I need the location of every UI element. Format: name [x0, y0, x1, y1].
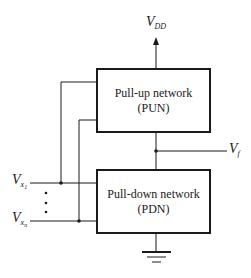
vxn-label-main: V [12, 210, 21, 225]
vx1-label: Vx1 [12, 172, 27, 190]
vdd-label-main: V [146, 14, 155, 29]
x1-junction-dot [59, 181, 63, 185]
ellipsis-dot [45, 192, 48, 195]
vxn-sub-index: n [24, 222, 27, 228]
ground-icon [142, 252, 171, 262]
vx1-label-main: V [12, 172, 21, 187]
vxn-label: Vxn [12, 210, 27, 228]
vdd-label-subscript: DD [155, 22, 167, 31]
vdd-label: VDD [146, 14, 166, 31]
vf-label-subscript: f [238, 149, 240, 158]
vf-label-main: V [229, 141, 238, 156]
ellipsis-dot [45, 211, 48, 214]
pdn-abbrev: (PDN) [97, 202, 210, 217]
vxn-label-subscript: xn [21, 218, 28, 227]
xn-to-pun-wire [79, 120, 97, 221]
circuit-wires [0, 0, 251, 278]
vx1-label-subscript: x1 [21, 180, 28, 189]
vf-label: Vf [229, 141, 240, 158]
pun-label: Pull-up network (PUN) [97, 86, 210, 116]
vdd-arrow-icon [153, 37, 159, 45]
pdn-label: Pull-down network (PDN) [97, 187, 210, 217]
pun-title: Pull-up network [97, 86, 210, 101]
pun-abbrev: (PUN) [97, 101, 210, 116]
vx1-sub-index: 1 [24, 184, 27, 190]
xn-junction-dot [77, 219, 81, 223]
cmos-gate-diagram: VDD Pull-up network (PUN) Vf Pull-down n… [0, 0, 251, 278]
pdn-title: Pull-down network [97, 187, 210, 202]
ellipsis-dot [45, 202, 48, 205]
